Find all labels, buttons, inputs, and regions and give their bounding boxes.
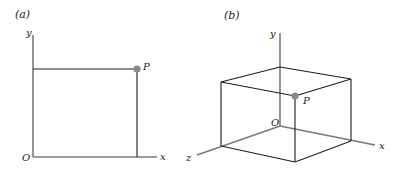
panel-b-x-axis xyxy=(280,126,375,145)
panel-b-point-label: P xyxy=(302,95,310,106)
panel-b-z-axis xyxy=(197,126,280,155)
panel-b-point-p xyxy=(291,92,298,99)
panel-b: (b) y x z O P xyxy=(185,9,385,163)
panel-b-edge-top-right xyxy=(295,79,351,96)
panel-a-x-label: x xyxy=(160,151,166,162)
panel-b-y-label: y xyxy=(269,28,276,39)
coordinate-figure: (a) y x O P (b) y x z O P xyxy=(0,0,402,177)
panel-b-edge-bottom-right xyxy=(295,141,351,162)
panel-a-origin-label: O xyxy=(22,152,30,163)
panel-b-edge-top-front xyxy=(221,82,295,96)
panel-b-edge-bottom-front xyxy=(221,146,295,162)
panel-a-point-label: P xyxy=(142,61,150,72)
panel-b-z-label: z xyxy=(185,152,192,163)
panel-a-y-label: y xyxy=(25,27,32,38)
panel-a-label: (a) xyxy=(15,8,30,21)
panel-b-label: (b) xyxy=(224,9,240,22)
panel-b-origin-label: O xyxy=(271,117,279,128)
panel-a-point-p xyxy=(133,65,140,72)
panel-b-edge-top-back xyxy=(280,67,351,79)
panel-b-edge-top-left xyxy=(221,67,280,82)
panel-b-x-label: x xyxy=(379,140,385,151)
panel-a: (a) y x O P xyxy=(15,8,166,163)
